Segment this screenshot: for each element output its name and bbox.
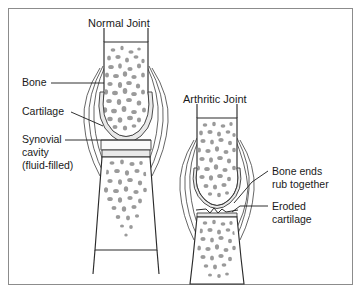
figure-canvas: Normal Joint Arthritic Joint Bone Cartil… [0, 0, 363, 295]
normal-joint-figure [84, 28, 168, 274]
label-synovial-line2: cavity [22, 146, 50, 158]
cartilage-leader-line [71, 112, 103, 126]
normal-lower-cartilage [102, 150, 150, 157]
arthritic-joint-title: Arthritic Joint [183, 93, 247, 105]
label-bone-ends-line1: Bone ends [272, 165, 322, 177]
label-bone-ends-line2: rub together [272, 178, 329, 190]
arthritic-joint-figure [180, 104, 254, 284]
arthritic-lower-bone [190, 217, 244, 284]
joint-comparison-diagram: Normal Joint Arthritic Joint Bone Cartil… [0, 0, 363, 295]
label-eroded-line1: Eroded [272, 200, 306, 212]
eroded-cartilage-leader-line [232, 206, 268, 212]
normal-synovial-cavity [101, 140, 151, 150]
label-bone: Bone [22, 76, 47, 88]
label-synovial-line1: Synovial [22, 133, 62, 145]
label-synovial-line3: (fluid-filled) [22, 159, 73, 171]
label-cartilage: Cartilage [22, 105, 64, 117]
label-eroded-line2: cartilage [272, 213, 312, 225]
arthritic-lower-eroded-cartilage [197, 213, 237, 217]
normal-joint-title: Normal Joint [88, 17, 150, 29]
arthritic-upper-bone [196, 118, 238, 206]
